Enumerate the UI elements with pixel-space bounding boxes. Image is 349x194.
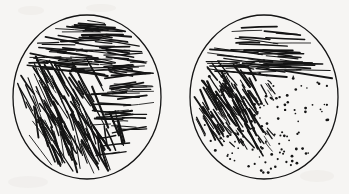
texture-stroke bbox=[42, 44, 75, 45]
texture-stroke bbox=[206, 61, 242, 62]
texture-dot bbox=[272, 99, 274, 101]
texture-dot bbox=[266, 74, 268, 76]
texture-stroke bbox=[110, 87, 147, 88]
texture-dot bbox=[208, 75, 211, 78]
texture-dot bbox=[209, 97, 211, 99]
texture-dot bbox=[220, 94, 222, 96]
texture-dot bbox=[204, 135, 206, 137]
texture-stroke bbox=[266, 38, 305, 40]
texture-dot bbox=[291, 155, 294, 158]
texture-dot bbox=[281, 131, 283, 133]
texture-dot bbox=[251, 114, 253, 116]
texture-dot bbox=[221, 88, 223, 90]
texture-dot bbox=[274, 165, 277, 168]
texture-stroke bbox=[95, 42, 112, 44]
texture-dot bbox=[210, 114, 213, 117]
texture-dot bbox=[260, 169, 263, 172]
texture-stroke bbox=[207, 69, 253, 75]
texture-dot bbox=[290, 164, 292, 166]
texture-dot bbox=[256, 111, 258, 113]
texture-stroke bbox=[84, 59, 112, 60]
left-disc-texture bbox=[18, 21, 154, 174]
texture-dot bbox=[264, 161, 266, 163]
texture-dot bbox=[259, 117, 261, 119]
texture-dot bbox=[274, 134, 276, 136]
texture-dot bbox=[230, 89, 232, 91]
texture-dot bbox=[294, 88, 297, 91]
texture-dot bbox=[234, 160, 236, 162]
texture-stroke bbox=[243, 73, 287, 78]
texture-dot bbox=[210, 140, 212, 142]
texture-dot bbox=[296, 133, 298, 135]
texture-dot bbox=[221, 132, 223, 134]
texture-dot bbox=[266, 122, 269, 125]
texture-dot bbox=[276, 106, 278, 108]
texture-dot bbox=[326, 85, 328, 87]
right-stimulus-disc bbox=[190, 15, 338, 179]
texture-dot bbox=[242, 136, 244, 138]
texture-stroke bbox=[265, 99, 268, 105]
texture-dot bbox=[326, 104, 328, 106]
texture-dot bbox=[259, 106, 261, 108]
texture-dot bbox=[295, 113, 297, 115]
texture-dot bbox=[219, 137, 222, 140]
texture-dot bbox=[270, 153, 273, 156]
texture-stroke bbox=[284, 67, 311, 68]
texture-dot bbox=[246, 107, 248, 109]
texture-dot bbox=[261, 147, 264, 150]
texture-dot bbox=[277, 158, 279, 160]
texture-stroke bbox=[121, 114, 147, 115]
texture-dot bbox=[279, 151, 281, 153]
texture-stroke bbox=[230, 142, 235, 147]
texture-dot bbox=[288, 139, 290, 141]
figure-root bbox=[0, 0, 349, 194]
texture-dot bbox=[296, 162, 299, 165]
texture-dot bbox=[304, 107, 307, 110]
texture-dot bbox=[243, 109, 245, 111]
texture-stroke bbox=[228, 127, 237, 136]
texture-dot bbox=[278, 143, 280, 145]
texture-dot bbox=[208, 88, 210, 90]
texture-dot bbox=[270, 168, 272, 170]
texture-stroke bbox=[18, 84, 27, 108]
texture-dot bbox=[265, 140, 267, 142]
texture-dot bbox=[258, 72, 261, 75]
texture-dot bbox=[285, 161, 287, 163]
texture-dot bbox=[214, 149, 217, 152]
texture-dot bbox=[280, 148, 282, 150]
texture-dot bbox=[300, 85, 302, 87]
texture-dot bbox=[284, 103, 287, 106]
texture-dot bbox=[267, 171, 270, 174]
stimulus-figure-canvas bbox=[0, 0, 349, 194]
texture-dot bbox=[304, 110, 307, 113]
texture-dot bbox=[272, 85, 274, 87]
texture-dot bbox=[247, 165, 249, 167]
texture-dot bbox=[227, 114, 230, 117]
texture-dot bbox=[252, 149, 254, 151]
texture-stroke bbox=[88, 21, 105, 24]
texture-dot bbox=[253, 114, 256, 117]
texture-stroke bbox=[114, 72, 153, 73]
texture-stroke bbox=[242, 27, 278, 28]
texture-dot bbox=[279, 134, 281, 136]
texture-dot bbox=[287, 101, 289, 103]
texture-dot bbox=[226, 135, 229, 138]
texture-dot bbox=[242, 130, 244, 132]
texture-dot bbox=[254, 98, 257, 101]
texture-dot bbox=[301, 147, 304, 150]
texture-dot bbox=[219, 104, 222, 107]
texture-stroke bbox=[218, 55, 265, 60]
texture-dot bbox=[325, 119, 328, 122]
texture-dot bbox=[284, 109, 286, 111]
texture-stroke bbox=[247, 50, 283, 51]
texture-dot bbox=[252, 127, 255, 130]
texture-dot bbox=[215, 94, 218, 97]
texture-dot bbox=[278, 96, 280, 98]
texture-dot bbox=[291, 160, 294, 163]
texture-dot bbox=[283, 151, 285, 153]
texture-dot bbox=[250, 120, 253, 123]
texture-stroke bbox=[232, 30, 262, 31]
texture-dot bbox=[270, 97, 272, 99]
texture-stroke bbox=[70, 73, 84, 94]
left-stimulus-disc bbox=[13, 15, 161, 179]
